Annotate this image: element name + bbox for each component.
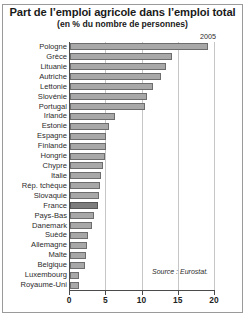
bar-row: Estonie (0, 121, 247, 131)
category-label: Grèce (0, 52, 67, 62)
series-year-label: 2005 (200, 32, 216, 41)
bar (70, 113, 115, 120)
bar-row: Luxembourg (0, 270, 247, 280)
chart-subtitle: (en % du nombre de personnes) (3, 19, 242, 29)
category-label: Malte (0, 250, 67, 260)
bar-row: Lettonie (0, 82, 247, 92)
category-label: Slovaquie (0, 191, 67, 201)
category-label: Chypre (0, 161, 67, 171)
category-label: Autriche (0, 72, 67, 82)
bar (70, 153, 105, 160)
bar-row: Espagne (0, 131, 247, 141)
category-label: Portugal (0, 102, 67, 112)
category-label: Italie (0, 171, 67, 181)
bar (70, 222, 92, 229)
bar-row: Italie (0, 171, 247, 181)
bar-row: France (0, 201, 247, 211)
category-label: Lettonie (0, 82, 67, 92)
bar-row: Suède (0, 230, 247, 240)
bar (70, 162, 103, 169)
bar (70, 252, 86, 259)
bar (70, 53, 172, 60)
bar (70, 93, 147, 100)
bar (70, 43, 208, 50)
x-tick-label: 15 (173, 295, 182, 305)
bar (70, 172, 101, 179)
category-label: Finlande (0, 141, 67, 151)
bar-row: Hongrie (0, 151, 247, 161)
bar-row: Irlande (0, 111, 247, 121)
bar-rows: PologneGrèceLituanieAutricheLettonieSlov… (0, 42, 247, 290)
bar-row: Slovaquie (0, 191, 247, 201)
bar (70, 212, 94, 219)
bar-row: Autriche (0, 72, 247, 82)
bar-row: Pays-Bas (0, 211, 247, 221)
bar-row: Lituanie (0, 62, 247, 72)
category-label: France (0, 201, 67, 211)
category-label: Slovénie (0, 92, 67, 102)
title-block: Part de l’emploi agricole dans l’emploi … (3, 6, 242, 29)
x-tick-label: 10 (137, 295, 146, 305)
bar-row: Rép. tchèque (0, 181, 247, 191)
category-label: Luxembourg (0, 270, 67, 280)
category-label: Lituanie (0, 62, 67, 72)
x-tick-label: 20 (209, 295, 218, 305)
bar (70, 242, 87, 249)
bar (70, 143, 106, 150)
bar (70, 103, 145, 110)
bar (70, 133, 106, 140)
category-label: Pologne (0, 42, 67, 52)
category-label: Belgique (0, 260, 67, 270)
bar (70, 232, 88, 239)
bar (70, 282, 79, 289)
category-label: Royaume-Uni (0, 280, 67, 290)
bar-row: Belgique (0, 260, 247, 270)
category-label: Danemark (0, 221, 67, 231)
bar-row: Portugal (0, 102, 247, 112)
bar-row: Allemagne (0, 240, 247, 250)
bar (70, 182, 100, 189)
bar-row: Slovénie (0, 92, 247, 102)
category-label: Irlande (0, 111, 67, 121)
category-label: Espagne (0, 131, 67, 141)
category-label: Hongrie (0, 151, 67, 161)
bar (70, 192, 99, 199)
bar-row: Royaume-Uni (0, 280, 247, 290)
chart-figure: Part de l’emploi agricole dans l’emploi … (0, 0, 247, 323)
bar (70, 262, 85, 269)
bar (70, 73, 161, 80)
bar-row: Grèce (0, 52, 247, 62)
category-label: Pays-Bas (0, 211, 67, 221)
source-note: Source : Eurostat. (152, 268, 208, 275)
bar-row: Finlande (0, 141, 247, 151)
category-label: Allemagne (0, 240, 67, 250)
bar-row: Chypre (0, 161, 247, 171)
bar (70, 123, 109, 130)
page-title: Part de l’emploi agricole dans l’emploi … (3, 6, 242, 19)
category-label: Suède (0, 230, 67, 240)
bar-row: Malte (0, 250, 247, 260)
x-tick-label: 0 (67, 295, 72, 305)
bar (70, 83, 153, 90)
bar (70, 202, 98, 209)
bar (70, 63, 166, 70)
category-label: Estonie (0, 121, 67, 131)
bar-row: Danemark (0, 221, 247, 231)
category-label: Rép. tchèque (0, 181, 67, 191)
bar-row: Pologne (0, 42, 247, 52)
bar (70, 272, 79, 279)
x-tick-label: 5 (103, 295, 108, 305)
